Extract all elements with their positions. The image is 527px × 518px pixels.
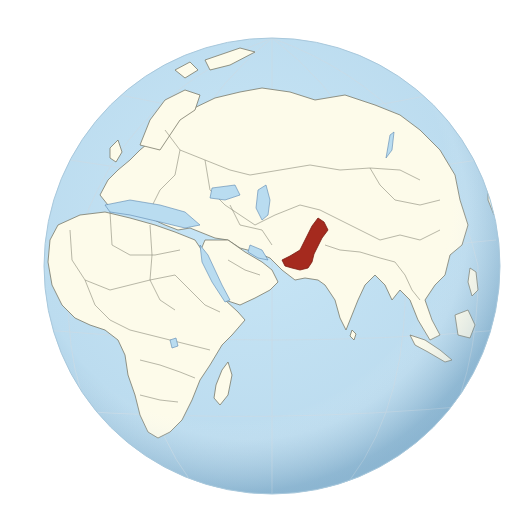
globe-shading xyxy=(44,38,500,494)
globe-map xyxy=(0,0,527,518)
australia-edge xyxy=(452,390,500,475)
